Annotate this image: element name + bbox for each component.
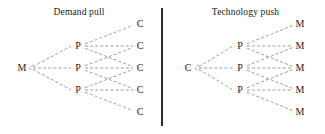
technology-push-edge-middle-2-to-target-4	[247, 92, 293, 110]
technology-push-source-node: C	[181, 62, 195, 74]
demand-pull-target-node-2: C	[133, 62, 147, 74]
demand-pull-source-node: M	[15, 62, 29, 74]
demand-pull-edge-middle-2-to-target-4	[85, 92, 133, 110]
technology-push-edge-middle-2-to-target-2	[247, 69, 293, 87]
demand-pull-middle-node-1: P	[71, 62, 85, 74]
technology-push-middle-node-2: P	[233, 84, 247, 96]
diagram-canvas: Demand pull Technology push MPPPCCCCCCPP…	[0, 0, 325, 134]
demand-pull-edge-source-to-middle-2	[33, 69, 71, 90]
demand-pull-middle-node-0: P	[71, 40, 85, 52]
demand-pull-edge-source-to-middle-0	[33, 46, 71, 67]
technology-push-edge-middle-1-to-target-3	[247, 70, 293, 88]
technology-push-edge-source-to-middle-0	[199, 46, 233, 67]
technology-push-edge-source-to-middle-2	[199, 69, 233, 90]
edge-layer	[0, 0, 325, 134]
demand-pull-edge-middle-0-to-target-2	[85, 48, 133, 66]
demand-pull-edge-middle-0-to-target-0	[85, 25, 133, 43]
demand-pull-target-node-4: C	[133, 106, 147, 118]
demand-pull-source-arrowhead	[29, 65, 33, 72]
technology-push-edge-middle-0-to-target-0	[247, 25, 293, 43]
technology-push-target-node-3: M	[293, 84, 307, 96]
demand-pull-middle-node-2: P	[71, 84, 85, 96]
demand-pull-target-node-1: C	[133, 40, 147, 52]
demand-pull-edge-middle-1-to-target-3	[85, 70, 133, 88]
demand-pull-target-node-3: C	[133, 84, 147, 96]
technology-push-target-node-4: M	[293, 106, 307, 118]
technology-push-edge-middle-0-to-target-2	[247, 48, 293, 66]
demand-pull-edge-middle-1-to-target-1	[85, 47, 133, 65]
technology-push-target-node-0: M	[293, 18, 307, 30]
demand-pull-target-node-0: C	[133, 18, 147, 30]
technology-push-source-arrowhead	[195, 65, 199, 72]
technology-push-middle-node-0: P	[233, 40, 247, 52]
technology-push-middle-node-1: P	[233, 62, 247, 74]
technology-push-edge-middle-1-to-target-1	[247, 47, 293, 65]
demand-pull-edge-middle-2-to-target-2	[85, 69, 133, 87]
technology-push-target-node-1: M	[293, 40, 307, 52]
technology-push-target-node-2: M	[293, 62, 307, 74]
